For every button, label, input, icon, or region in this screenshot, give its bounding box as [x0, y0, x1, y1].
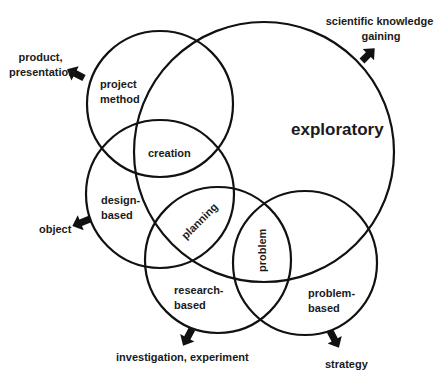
- output-strategy: strategy: [325, 358, 369, 370]
- venn-diagram: project method exploratory design- based…: [0, 0, 444, 387]
- label-problem: problem: [256, 228, 268, 272]
- output-investigation-experiment: investigation, experiment: [116, 351, 249, 363]
- label-research-based: research- based: [174, 284, 227, 311]
- label-creation: creation: [148, 147, 191, 159]
- label-exploratory: exploratory: [291, 120, 384, 139]
- label-problem-based: problem- based: [308, 287, 358, 314]
- output-object: object: [39, 223, 72, 235]
- circle-problem-based: [233, 191, 377, 335]
- output-product-presentation: product, presentation: [9, 51, 75, 78]
- output-scientific-knowledge: scientific knowledge gaining: [326, 15, 437, 42]
- label-project-method: project method: [100, 78, 140, 105]
- label-design-based: design- based: [101, 194, 143, 221]
- label-planning: planning: [179, 201, 220, 242]
